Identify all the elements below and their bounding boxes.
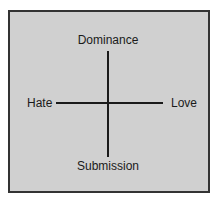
hate-label: Hate — [27, 96, 52, 110]
love-label: Love — [171, 96, 197, 110]
submission-label: Submission — [77, 159, 139, 173]
vertical-axis-line — [107, 51, 109, 157]
horizontal-axis-line — [56, 102, 163, 104]
dominance-label: Dominance — [78, 33, 139, 47]
